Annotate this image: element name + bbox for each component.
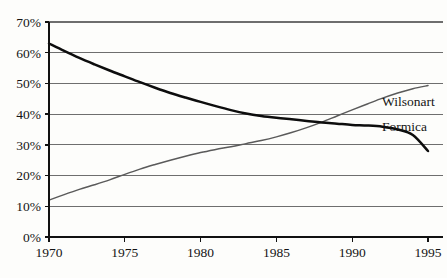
x-axis-label-1985: 1985 [263,245,290,260]
series-label-wilsonart: Wilsonart [382,94,435,109]
series-line-wilsonart [49,86,428,201]
y-axis-label-60: 60% [16,46,41,61]
y-axis-label-30: 30% [16,138,41,153]
y-axis-label-0: 0% [23,230,41,245]
x-axis-label-1975: 1975 [111,245,138,260]
y-axis-labels-group: 0%10%20%30%40%50%60%70% [16,15,41,245]
x-axis-label-1980: 1980 [187,245,214,260]
line-chart: 0%10%20%30%40%50%60%70% 1970197519801985… [0,0,447,278]
x-axis-label-1995: 1995 [415,245,442,260]
series-group [49,44,428,201]
series-line-formica [49,44,428,152]
y-axis-label-70: 70% [16,15,41,30]
y-axis-label-40: 40% [16,107,41,122]
x-axis-label-1970: 1970 [36,245,63,260]
series-label-formica: Formica [382,119,427,134]
y-axis-label-20: 20% [16,168,41,183]
y-axis-label-10: 10% [16,199,41,214]
tick-marks-group [45,22,428,242]
y-axis-label-50: 50% [16,76,41,91]
x-axis-labels-group: 197019751980198519901995 [36,245,442,260]
chart-container: 0%10%20%30%40%50%60%70% 1970197519801985… [0,0,447,278]
x-axis-label-1990: 1990 [339,245,366,260]
